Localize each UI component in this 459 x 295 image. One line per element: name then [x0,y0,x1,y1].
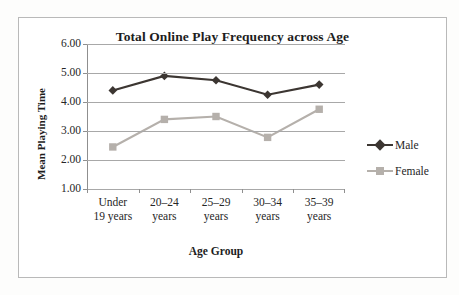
x-axis-title: Age Group [87,245,345,257]
x-axis-tick-label: 25–29 years [187,196,245,223]
gridline [87,160,345,161]
x-axis-tick-label: 35–39 years [290,196,348,223]
x-axis-tick-label: Under 19 years [84,196,142,223]
x-axis-tick-label: 20–24 years [135,196,193,223]
data-point-male-2 [212,76,221,85]
x-axis-tickmark [190,189,191,193]
series-layer [87,44,345,189]
chart-frame: Total Online Play Frequency across Age M… [18,17,447,278]
data-point-male-0 [109,86,118,95]
y-axis-tickmark [83,102,87,103]
y-axis-tickmark [83,160,87,161]
chart-legend: MaleFemale [367,132,447,184]
x-axis-tickmark [344,189,345,193]
data-point-female-0 [109,143,116,150]
legend-square-marker-icon [376,167,384,175]
legend-diamond-marker-icon [374,139,385,150]
x-axis-tickmark [87,189,88,193]
y-axis-tick-labels: 6.005.004.003.002.001.00 [41,18,81,279]
data-point-male-3 [263,90,272,99]
gridline [87,131,345,132]
gridline [87,102,345,103]
x-axis-tick-label: 30–34 years [239,196,297,223]
gridline [87,44,345,45]
y-axis-tick-label: 4.00 [41,96,81,108]
x-axis-tickmark [139,189,140,193]
gridline [87,189,345,190]
legend-item-female[interactable]: Female [367,158,447,184]
data-point-female-2 [212,113,219,120]
data-point-female-3 [264,134,271,141]
plot-area [87,44,345,189]
legend-swatch-male [367,139,393,151]
gridline [87,73,345,74]
y-axis-tick-label: 2.00 [41,154,81,166]
legend-swatch-female [367,165,393,177]
data-point-male-4 [315,80,324,89]
y-axis-tick-label: 1.00 [41,183,81,195]
y-axis-tickmark [83,73,87,74]
data-point-female-4 [316,106,323,113]
x-axis-tick-labels: Under 19 years20–24 years25–29 years30–3… [87,196,345,238]
y-axis-tick-label: 5.00 [41,67,81,79]
y-axis-tick-label: 6.00 [41,38,81,50]
legend-item-male[interactable]: Male [367,132,447,158]
page-background: Total Online Play Frequency across Age M… [0,0,459,295]
y-axis-tickmark [83,131,87,132]
chart-title: Total Online Play Frequency across Age [19,29,446,45]
legend-label: Male [393,139,419,151]
y-axis-tick-label: 3.00 [41,125,81,137]
data-point-female-1 [161,116,168,123]
legend-label: Female [393,165,429,177]
y-axis-tickmark [83,44,87,45]
x-axis-tickmark [242,189,243,193]
x-axis-tickmark [293,189,294,193]
